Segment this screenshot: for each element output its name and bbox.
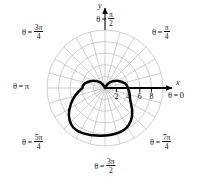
theta-glyph: θ (150, 138, 154, 147)
fraction-3pi-over-2: 3π2 (106, 158, 116, 176)
fraction-3pi-over-4: 3π4 (34, 24, 44, 42)
y-axis-label: y (98, 1, 102, 10)
x-axis-label: x (176, 78, 180, 87)
equals-sign: = (28, 28, 33, 37)
theta-glyph: θ (13, 82, 17, 91)
theta-glyph: θ (152, 28, 156, 37)
equals-sign: = (100, 162, 105, 171)
angle-label-5pi-over-4: θ=5π4 (22, 134, 43, 152)
radial-tick-label-4: 4 (126, 92, 130, 101)
equals-sign: = (19, 82, 24, 91)
theta-glyph: θ (22, 28, 26, 37)
zero-glyph: 0 (180, 91, 184, 100)
radial-tick-label-6: 6 (138, 92, 142, 101)
equals-sign: = (156, 138, 161, 147)
theta-glyph: θ (168, 91, 172, 100)
angle-label-7pi-over-4: θ=7π4 (150, 134, 171, 152)
theta-glyph: θ (94, 162, 98, 171)
fraction-pi-over-4: π4 (164, 24, 170, 42)
fraction-pi-over-2: π2 (108, 11, 114, 29)
angle-label-pi-over-2: θ=π2 (96, 11, 114, 29)
equals-sign: = (102, 15, 107, 24)
equals-sign: = (28, 138, 33, 147)
angle-label-3pi-over-4: θ=3π4 (22, 24, 43, 42)
pi-glyph: π (25, 82, 29, 91)
equals-sign: = (158, 28, 163, 37)
theta-glyph: θ (22, 138, 26, 147)
theta-glyph: θ (96, 15, 100, 24)
fraction-7pi-over-4: 7π4 (162, 134, 172, 152)
angle-label-pi: θ=π (13, 83, 29, 91)
equals-sign: = (174, 91, 179, 100)
polar-plot-figure: y x θ=π2 θ=π4 θ=3π4 θ=π θ=0 θ=5π4 θ=7π4 … (0, 0, 201, 178)
fraction-5pi-over-4: 5π4 (34, 134, 44, 152)
radial-tick-label-2: 2 (115, 92, 119, 101)
radial-tick-label-8: 8 (149, 92, 153, 101)
angle-label-3pi-over-2: θ=3π2 (94, 158, 115, 176)
angle-label-zero: θ=0 (168, 92, 184, 100)
angle-label-pi-over-4: θ=π4 (152, 24, 170, 42)
